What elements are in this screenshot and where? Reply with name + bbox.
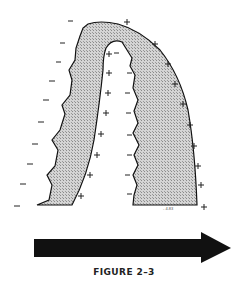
- figure-caption: FIGURE 2–3: [0, 267, 248, 277]
- arch-body: [37, 22, 197, 205]
- artist-signature: - 4.83: [163, 206, 173, 211]
- direction-arrow: [34, 232, 231, 263]
- inner-negative-charges: [114, 53, 132, 194]
- arch-diagram: [0, 0, 248, 291]
